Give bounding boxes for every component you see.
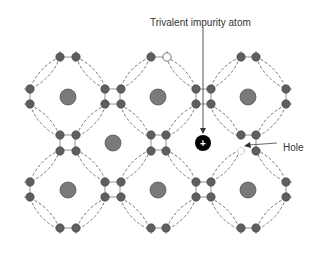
nucleus-atom bbox=[240, 89, 256, 105]
valence-electron bbox=[56, 53, 64, 61]
bond-arc bbox=[120, 150, 150, 182]
bond-arc bbox=[120, 105, 150, 137]
valence-electron bbox=[252, 224, 260, 232]
bond-arc bbox=[256, 57, 286, 89]
valence-electron bbox=[72, 147, 80, 155]
bond-arc bbox=[120, 198, 150, 230]
bond-arc bbox=[30, 198, 60, 230]
bond-arc bbox=[76, 57, 106, 89]
bond-arc bbox=[166, 105, 196, 137]
valence-electron bbox=[162, 147, 170, 155]
valence-electron bbox=[117, 85, 125, 93]
bond-arc bbox=[30, 150, 60, 182]
bond-arc bbox=[166, 57, 196, 89]
nucleus-atom bbox=[150, 89, 166, 105]
bond-arc bbox=[120, 57, 150, 89]
bond-arc bbox=[166, 150, 196, 182]
valence-electron bbox=[147, 224, 155, 232]
arrow-head-icon bbox=[200, 128, 206, 134]
valence-electron bbox=[192, 100, 200, 108]
bond-arc bbox=[76, 198, 106, 230]
valence-electron bbox=[192, 193, 200, 201]
bond-arc bbox=[76, 150, 106, 182]
valence-electron bbox=[207, 193, 215, 201]
bond-arc bbox=[166, 150, 196, 182]
valence-electron bbox=[192, 85, 200, 93]
valence-electron bbox=[207, 178, 215, 186]
valence-electron bbox=[252, 53, 260, 61]
bond-arc bbox=[256, 150, 286, 182]
valence-electron bbox=[162, 224, 170, 232]
bond-arc bbox=[30, 150, 60, 182]
plus-sign-icon: + bbox=[200, 138, 206, 149]
valence-electron bbox=[282, 193, 290, 201]
valence-electron bbox=[237, 53, 245, 61]
bond-arc bbox=[166, 198, 196, 230]
valence-electron bbox=[101, 193, 109, 201]
valence-electron bbox=[117, 178, 125, 186]
bond-arc bbox=[256, 150, 286, 182]
bond-arc bbox=[256, 105, 286, 137]
bond-arc bbox=[210, 105, 240, 137]
valence-electron bbox=[282, 178, 290, 186]
valence-electron bbox=[72, 53, 80, 61]
bond-arc bbox=[30, 105, 60, 137]
bond-arc bbox=[120, 57, 150, 89]
bond-arc bbox=[166, 105, 196, 137]
crystal-lattice-diagram: + bbox=[0, 0, 320, 254]
valence-electron bbox=[117, 100, 125, 108]
valence-electron bbox=[56, 147, 64, 155]
valence-electron bbox=[26, 193, 34, 201]
bond-arc bbox=[210, 198, 240, 230]
valence-electron bbox=[72, 131, 80, 139]
bond-arc bbox=[30, 105, 60, 137]
valence-electron bbox=[237, 224, 245, 232]
nucleus-atom bbox=[240, 182, 256, 198]
valence-electron bbox=[117, 193, 125, 201]
nucleus-atom bbox=[105, 135, 121, 151]
nucleus-atom bbox=[60, 182, 76, 198]
hole-pointer-line bbox=[249, 143, 277, 145]
bond-arc bbox=[256, 105, 286, 137]
hole-label: Hole bbox=[283, 137, 304, 155]
valence-electron bbox=[101, 178, 109, 186]
valence-electron bbox=[162, 131, 170, 139]
bond-arc bbox=[210, 57, 240, 89]
bond-arc bbox=[120, 105, 150, 137]
bond-arc bbox=[210, 57, 240, 89]
bond-arc bbox=[120, 150, 150, 182]
nucleus-atom bbox=[150, 182, 166, 198]
bond-arc bbox=[76, 150, 106, 182]
bond-arc bbox=[30, 198, 60, 230]
valence-electron bbox=[147, 131, 155, 139]
bond-arc bbox=[210, 198, 240, 230]
bond-arc bbox=[76, 57, 106, 89]
bond-arc bbox=[166, 198, 196, 230]
arrow-head-icon bbox=[244, 142, 251, 148]
valence-electron bbox=[26, 85, 34, 93]
valence-electron bbox=[72, 224, 80, 232]
valence-electron bbox=[56, 224, 64, 232]
bond-arc bbox=[210, 150, 240, 182]
valence-electron bbox=[101, 85, 109, 93]
valence-electron bbox=[26, 178, 34, 186]
impurity-label: Trivalent impurity atom bbox=[150, 12, 251, 30]
bond-arc bbox=[30, 57, 60, 89]
empty-electron-site bbox=[163, 53, 171, 61]
valence-electron bbox=[147, 147, 155, 155]
valence-electron bbox=[207, 85, 215, 93]
valence-electron bbox=[26, 100, 34, 108]
bond-arc bbox=[76, 105, 106, 137]
valence-electron bbox=[237, 131, 245, 139]
valence-electron bbox=[252, 131, 260, 139]
bond-arc bbox=[210, 150, 240, 182]
valence-electron bbox=[282, 100, 290, 108]
bond-arc bbox=[120, 198, 150, 230]
valence-electron bbox=[192, 178, 200, 186]
bond-arc bbox=[256, 198, 286, 230]
bond-arc bbox=[76, 198, 106, 230]
nucleus-atom bbox=[60, 89, 76, 105]
bond-arc bbox=[256, 198, 286, 230]
hole-site bbox=[238, 148, 245, 155]
bond-arc bbox=[166, 57, 196, 89]
